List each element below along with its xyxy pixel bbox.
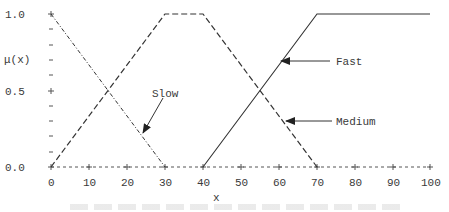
fast-label: Fast: [336, 56, 362, 68]
svg-text:60: 60: [273, 177, 286, 189]
svg-text:20: 20: [121, 177, 134, 189]
medium-label: Medium: [336, 116, 376, 128]
svg-text:30: 30: [159, 177, 172, 189]
svg-text:0: 0: [48, 177, 55, 189]
x-tick-labels: 0 10 20 30 40 50 60 70 80 90 100: [48, 177, 441, 189]
svg-text:40: 40: [197, 177, 210, 189]
caption-cutoff: [70, 204, 400, 210]
y-tick-0.5: 0.5: [5, 86, 25, 98]
slow-label: Slow: [152, 88, 179, 100]
y-axis-ticks: [48, 11, 54, 152]
svg-text:70: 70: [311, 177, 324, 189]
series-fast: [203, 14, 430, 167]
slow-arrow: [143, 98, 163, 133]
svg-text:90: 90: [387, 177, 400, 189]
svg-text:80: 80: [349, 177, 362, 189]
y-tick-0.0: 0.0: [5, 162, 25, 174]
svg-text:10: 10: [83, 177, 96, 189]
x-axis-label: x: [213, 192, 220, 204]
membership-function-chart: 1.0 μ(x) 0.5 0.0 0 10 20 30 40 50 60 70 …: [0, 0, 449, 212]
svg-text:50: 50: [235, 177, 248, 189]
y-tick-1.0: 1.0: [5, 9, 25, 21]
svg-text:100: 100: [421, 177, 441, 189]
y-axis-label: μ(x): [4, 54, 30, 66]
series-medium: [51, 14, 317, 167]
